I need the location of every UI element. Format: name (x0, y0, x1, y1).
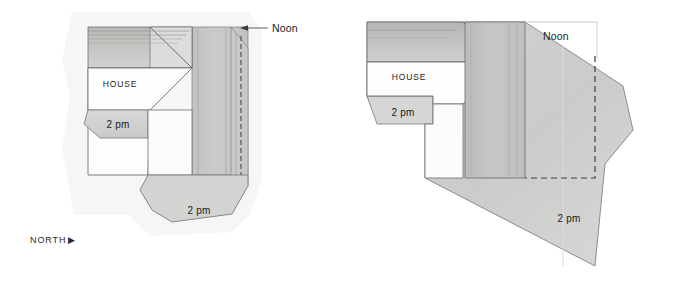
house-lower-leg (148, 110, 192, 175)
house-label-left: HOUSE (103, 79, 138, 89)
diagram-panel-right: HOUSE 2 pm 2 pm Noon NORTH▶ (337, 0, 677, 281)
north-arrow-icon-left: ▶ (66, 235, 76, 245)
north-label-left: NORTH (30, 235, 66, 245)
shadow-2pm-west-label-left: 2 pm (106, 119, 129, 130)
shadow-2pm-south-label-left: 2 pm (187, 205, 210, 216)
right-diagram-canvas: HOUSE 2 pm 2 pm Noon (337, 0, 677, 281)
noon-label-left: Noon (272, 22, 298, 34)
shadow-2pm-south-label-right: 2 pm (557, 213, 580, 224)
shadow-noon-bevel (231, 27, 248, 186)
noon-label-right: Noon (543, 30, 569, 42)
north-indicator-left: NORTH▶ (30, 236, 76, 245)
house-label-right: HOUSE (392, 72, 427, 82)
shadow-noon-band-right (465, 22, 525, 178)
shadow-study-figure: HOUSE 2 pm 2 pm Noon NORTH▶ (0, 0, 677, 281)
diagram-panel-left: HOUSE 2 pm 2 pm Noon NORTH▶ (0, 0, 340, 281)
shadow-2pm-west-label-right: 2 pm (391, 107, 414, 118)
